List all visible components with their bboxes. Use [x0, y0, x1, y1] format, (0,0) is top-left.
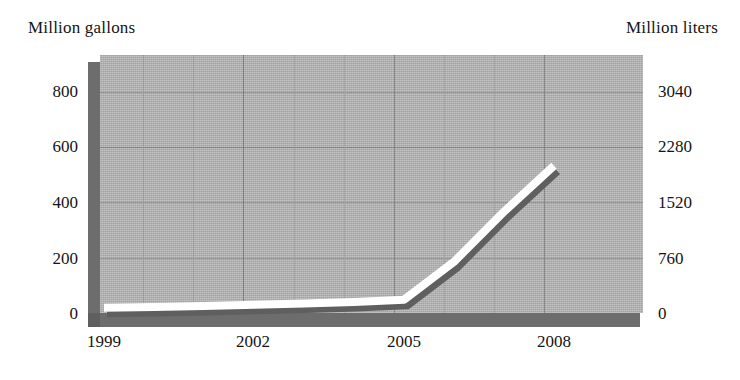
axis-wall-left [88, 62, 100, 320]
left-axis-ticks: 8006004002000 [0, 55, 78, 327]
axis-tick-label: 400 [53, 193, 79, 213]
right-axis-caption: Million liters [626, 18, 718, 38]
axis-tick-label: 200 [53, 249, 79, 269]
axis-tick-label: 2008 [537, 332, 571, 352]
axis-tick-label: 800 [53, 82, 79, 102]
chart-figure: Million gallons Million liters 800600400… [0, 0, 740, 380]
series-line-shadow [107, 171, 557, 313]
axis-tick-label: 0 [658, 304, 667, 324]
axis-tick-label: 760 [658, 249, 684, 269]
x-axis-ticks: 1999200220052008 [0, 332, 740, 362]
axis-tick-label: 0 [70, 304, 79, 324]
plot-area [88, 55, 650, 327]
right-axis-ticks: 3040228015207600 [658, 55, 738, 327]
axis-floor-bevel [88, 313, 100, 327]
axis-tick-label: 2005 [387, 332, 421, 352]
axis-tick-label: 3040 [658, 82, 692, 102]
axis-tick-label: 2002 [236, 332, 270, 352]
axis-tick-label: 1999 [87, 332, 121, 352]
left-axis-caption: Million gallons [28, 18, 135, 38]
axis-tick-label: 2280 [658, 137, 692, 157]
data-series-layer [100, 55, 643, 327]
axis-tick-label: 600 [53, 137, 79, 157]
axis-tick-label: 1520 [658, 193, 692, 213]
